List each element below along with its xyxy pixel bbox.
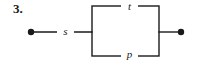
circuit-diagram-svg	[0, 0, 203, 66]
right-terminal-dot	[178, 29, 184, 35]
circuit-figure: 3. s t p	[0, 0, 203, 66]
left-terminal-dot	[28, 29, 34, 35]
switch-label-t: t	[121, 1, 138, 12]
switch-label-s: s	[57, 26, 74, 37]
switch-label-p: p	[121, 49, 138, 60]
